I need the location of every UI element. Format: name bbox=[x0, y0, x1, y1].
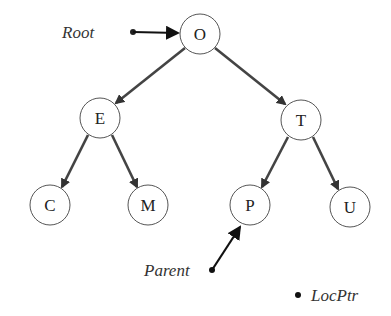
tree-node-E: E bbox=[80, 98, 120, 138]
tree-diagram: O E T C M P U Root Parent LocPtr bbox=[0, 0, 391, 316]
node-label: P bbox=[245, 196, 254, 215]
edge-O-T bbox=[215, 48, 285, 104]
parent-arrow-icon bbox=[212, 227, 240, 270]
node-label: M bbox=[140, 196, 155, 215]
edge-E-M bbox=[112, 135, 137, 187]
root-label: Root bbox=[61, 23, 95, 42]
tree-node-M: M bbox=[128, 185, 168, 225]
node-label: U bbox=[344, 198, 356, 217]
tree-node-P: P bbox=[230, 185, 270, 225]
locptr-pointer: LocPtr bbox=[295, 286, 359, 305]
root-pointer: Root bbox=[61, 23, 178, 42]
parent-pointer: Parent bbox=[143, 227, 240, 280]
locptr-dot-icon bbox=[295, 292, 301, 298]
tree-node-T: T bbox=[281, 100, 321, 140]
node-label: O bbox=[194, 25, 206, 44]
edge-T-P bbox=[262, 137, 288, 187]
tree-node-O: O bbox=[180, 14, 220, 54]
node-label: T bbox=[296, 111, 307, 130]
edge-T-U bbox=[313, 137, 338, 189]
edge-E-C bbox=[62, 135, 88, 187]
tree-node-U: U bbox=[330, 187, 370, 227]
tree-node-C: C bbox=[30, 185, 70, 225]
edge-O-E bbox=[116, 48, 185, 103]
parent-label: Parent bbox=[143, 261, 191, 280]
node-label: E bbox=[95, 109, 105, 128]
node-label: C bbox=[44, 196, 55, 215]
root-arrow-icon bbox=[133, 32, 178, 33]
locptr-label: LocPtr bbox=[310, 286, 359, 305]
